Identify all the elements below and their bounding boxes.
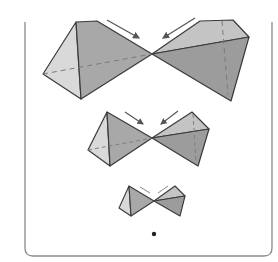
small-left-arrow bbox=[140, 187, 150, 193]
limit-point-dot bbox=[152, 232, 156, 236]
medium-bowtie bbox=[88, 111, 209, 166]
small-left-face-dark bbox=[129, 186, 154, 216]
small-bowtie bbox=[119, 186, 185, 216]
large-bowtie bbox=[43, 18, 249, 101]
medium-left-arrow bbox=[125, 112, 143, 124]
large-left-face-dark bbox=[76, 21, 152, 99]
large-left-face-light bbox=[43, 22, 81, 99]
diagram-canvas bbox=[0, 0, 278, 262]
medium-left-face-light bbox=[88, 112, 110, 166]
